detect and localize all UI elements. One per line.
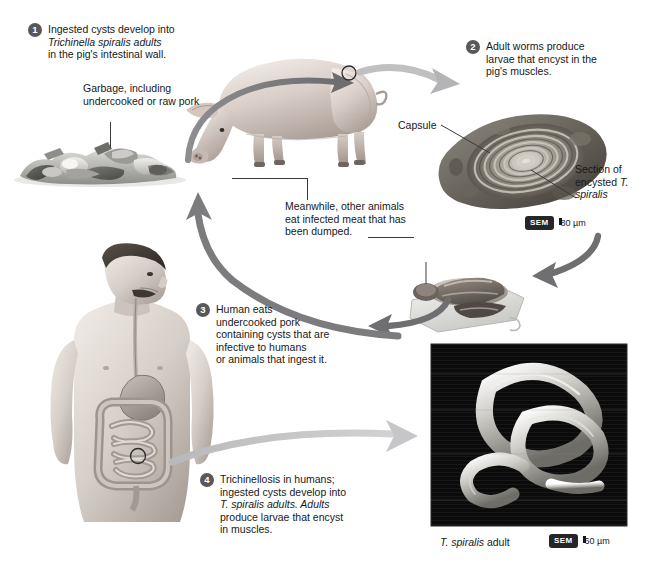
section-label: Section of encysted T. spiralis bbox=[575, 163, 647, 201]
scale-bar-2: 60 µm bbox=[585, 536, 610, 546]
adult-caption-species: T. spiralis bbox=[440, 536, 484, 548]
step-3-line-3: containing cysts that are bbox=[216, 328, 376, 341]
step-2-line-1: Adult worms produce bbox=[486, 40, 646, 53]
step-3-badge: 3 bbox=[196, 303, 210, 317]
adult-worm-micrograph bbox=[431, 344, 627, 526]
sem-label-1: SEM bbox=[525, 216, 554, 230]
meanwhile-line-3: meat that has bbox=[342, 213, 406, 225]
capsule-label: Capsule bbox=[398, 119, 437, 132]
meanwhile-leader-horizontal bbox=[232, 178, 308, 179]
section-leader-line bbox=[530, 168, 578, 200]
step-4-line-3: T. spiralis adults. Adults bbox=[220, 498, 396, 511]
garbage-label: Garbage, including undercooked or raw po… bbox=[83, 82, 223, 107]
adult-caption-rest: adult bbox=[484, 536, 510, 548]
step-2-line-3: pig's muscles. bbox=[486, 65, 646, 78]
step-4-line-1: Trichinellosis in humans; bbox=[220, 473, 396, 486]
step-4-line-2: ingested cysts develop into bbox=[220, 486, 396, 499]
step-1-line-2: Trichinella spiralis adults bbox=[48, 36, 248, 49]
sem-badge-group-1: SEM 80 µm bbox=[525, 216, 586, 230]
step-4-line-4: produce larvae that encyst bbox=[220, 511, 396, 524]
step-3-line-2: undercooked pork bbox=[216, 316, 376, 329]
step-3: 3 Human eats undercooked pork containing… bbox=[196, 303, 376, 366]
dumped-leader-line bbox=[368, 237, 414, 238]
step-1: 1 Ingested cysts develop into Trichinell… bbox=[28, 23, 248, 61]
human-anatomy-image bbox=[40, 244, 226, 534]
meanwhile-leader-vertical bbox=[307, 178, 308, 200]
step-1-badge: 1 bbox=[28, 23, 42, 37]
step-1-line-3: in the pig's intestinal wall. bbox=[48, 48, 248, 61]
arrow-human-to-adult-sem bbox=[170, 400, 432, 478]
step-3-line-5: or animals that ingest it. bbox=[216, 353, 376, 366]
garbage-label-line-3: raw pork bbox=[159, 95, 199, 107]
garbage-label-line-1: Garbage, including bbox=[83, 82, 171, 94]
scale-bar-1: 80 µm bbox=[561, 218, 586, 228]
meanwhile-label: Meanwhile, other animals eat infected me… bbox=[285, 200, 407, 238]
meanwhile-line-4: been dumped. bbox=[285, 225, 352, 237]
sem-label-2: SEM bbox=[549, 534, 578, 548]
meanwhile-line-1: Meanwhile, other bbox=[285, 200, 365, 212]
scale-value-1: 80 µm bbox=[561, 218, 586, 228]
arrow-pig-to-capsule bbox=[356, 50, 472, 110]
sem-badge-group-2: SEM 60 µm bbox=[549, 534, 610, 548]
step-2-badge: 2 bbox=[466, 40, 480, 54]
capsule-leader-line bbox=[440, 122, 496, 156]
step-1-line-1: Ingested cysts develop into bbox=[48, 23, 248, 36]
step-3-line-4: infective to humans bbox=[216, 341, 376, 354]
step-4-line-5: in muscles. bbox=[220, 523, 396, 536]
step-4-badge: 4 bbox=[200, 473, 214, 487]
garbage-leader-line bbox=[110, 122, 111, 148]
life-cycle-diagram: 1 Ingested cysts develop into Trichinell… bbox=[0, 0, 649, 572]
step-2-line-2: larvae that encyst in the bbox=[486, 53, 646, 66]
garbage-label-line-2: undercooked or bbox=[83, 95, 156, 107]
section-label-line-2: encysted bbox=[575, 176, 617, 188]
step-2: 2 Adult worms produce larvae that encyst… bbox=[466, 40, 646, 78]
section-label-line-1: Section of bbox=[575, 163, 622, 175]
scale-value-2: 60 µm bbox=[585, 536, 610, 546]
adult-caption: T. spiralis adult bbox=[440, 536, 510, 549]
step-4: 4 Trichinellosis in humans; ingested cys… bbox=[200, 473, 396, 536]
step-3-line-1: Human eats bbox=[216, 303, 376, 316]
